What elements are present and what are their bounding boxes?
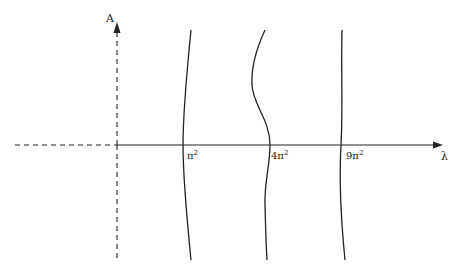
tick-exponent: 2: [359, 149, 363, 157]
x-axis-arrow-icon: [433, 142, 443, 149]
x-axis-label: λ: [441, 151, 448, 162]
tick-exponent: 2: [284, 149, 288, 157]
bifurcation-diagram: [0, 0, 462, 273]
tick-base: 4π: [271, 150, 284, 161]
y-axis-label: A: [106, 13, 114, 24]
y-axis-arrow-icon: [114, 22, 121, 33]
tick-exponent: 2: [194, 149, 198, 157]
tick-base: π: [187, 150, 194, 161]
tick-label-9pi-squared: 9π2: [346, 150, 363, 161]
tick-label-pi-squared: π2: [187, 150, 198, 161]
tick-label-4pi-squared: 4π2: [271, 150, 288, 161]
tick-base: 9π: [346, 150, 359, 161]
